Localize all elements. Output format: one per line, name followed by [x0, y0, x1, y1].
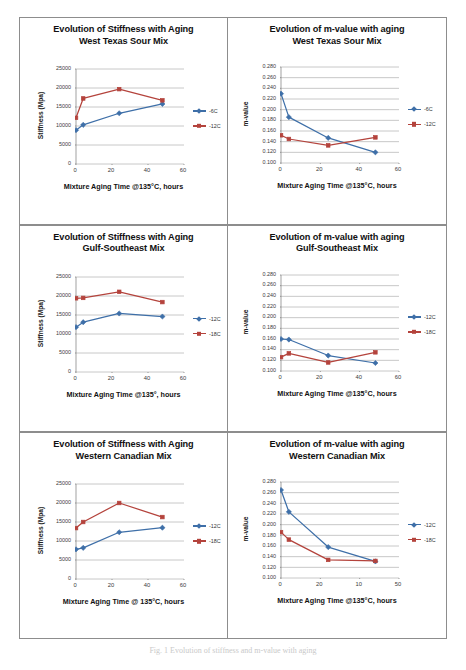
- chart-legend: -12C-18C: [193, 316, 221, 346]
- legend-item[interactable]: -12C: [193, 523, 221, 529]
- y-tick-label: 0.100: [263, 367, 277, 373]
- chart-title-line2: Western Canadian Mix: [228, 451, 446, 463]
- x-axis-title: Mixture Aging Time @135°C, hours: [228, 389, 446, 398]
- y-tick-label: 0.180: [263, 324, 277, 330]
- x-axis-tick-labels: 0201050: [280, 581, 398, 591]
- legend-square-icon: [408, 539, 421, 541]
- x-tick-label: 40: [355, 166, 361, 172]
- chart-title-line2: West Texas Sour Mix: [228, 36, 446, 48]
- chart-panel-stiffness-western-canadian: Evolution of Stiffness with AgingWestern…: [19, 432, 227, 639]
- x-axis-title: Mixture Aging Time @135°C, hours: [20, 182, 227, 191]
- y-tick-label: 0.160: [263, 542, 277, 548]
- y-axis-tick-labels: 0.1000.1200.1400.1600.1800.2000.2200.240…: [248, 274, 276, 370]
- figure-grid: Evolution of Stiffness with AgingWest Te…: [19, 17, 447, 639]
- x-tick-label: 40: [144, 167, 150, 173]
- y-tick-label: 0.220: [263, 95, 277, 101]
- chart-title-line1: Evolution of m-value with aging: [228, 439, 446, 451]
- y-tick-label: 15000: [56, 311, 71, 317]
- y-tick-label: 20000: [56, 292, 71, 298]
- x-tick-label: 60: [180, 582, 186, 588]
- y-tick-label: 0.220: [263, 303, 277, 309]
- x-tick-label: 40: [144, 582, 150, 588]
- y-axis-tick-labels: 0500010000150002000025000: [43, 276, 71, 371]
- y-tick-label: 0.260: [263, 74, 277, 80]
- legend-item[interactable]: -12C: [408, 522, 436, 528]
- x-tick-label: 40: [144, 375, 150, 381]
- legend-label: -18C: [424, 537, 436, 543]
- chart-title-line1: Evolution of Stiffness with Aging: [20, 439, 227, 451]
- y-tick-label: 0.140: [263, 345, 277, 351]
- x-axis-title: Mixture Aging Time @135°C, hours: [228, 181, 446, 190]
- x-axis-title: Mixture Aging Time @135°, hours: [20, 390, 227, 399]
- chart-row: Evolution of Stiffness with AgingWestern…: [19, 432, 447, 639]
- chart-title-line2: Gulf-Southeast Mix: [228, 243, 446, 255]
- legend-diamond-icon: [408, 524, 421, 526]
- chart-panel-mvalue-gulf-southeast: Evolution of m-value with agingGulf-Sout…: [227, 225, 447, 432]
- y-tick-label: 15000: [56, 518, 71, 524]
- y-tick-label: 20000: [56, 499, 71, 505]
- legend-item[interactable]: -12C: [193, 123, 221, 129]
- y-tick-label: 0.140: [263, 138, 277, 144]
- legend-item[interactable]: -18C: [408, 537, 436, 543]
- legend-label: -18C: [209, 538, 221, 544]
- chart-title-line2: Gulf-Southeast Mix: [20, 243, 227, 255]
- legend-square-icon: [408, 124, 421, 126]
- legend-item[interactable]: -6C: [408, 106, 436, 112]
- x-axis-title: Mixture Aging Time @135°C, hours: [228, 596, 446, 605]
- y-tick-label: 0: [68, 368, 71, 374]
- legend-label: -18C: [209, 331, 221, 337]
- y-tick-label: 10000: [56, 537, 71, 543]
- x-tick-label: 20: [316, 166, 322, 172]
- y-tick-label: 0.240: [263, 84, 277, 90]
- x-tick-label: 0: [278, 581, 281, 587]
- legend-label: -6C: [424, 106, 433, 112]
- y-tick-label: 0: [68, 160, 71, 166]
- x-tick-label: 60: [395, 166, 401, 172]
- chart-title-line1: Evolution of Stiffness with Aging: [20, 232, 227, 244]
- figure-caption: Fig. 1 Evolution of stiffness and m-valu…: [0, 646, 466, 655]
- legend-item[interactable]: -18C: [193, 331, 221, 337]
- legend-square-icon: [193, 540, 206, 542]
- legend-square-icon: [193, 125, 206, 127]
- x-tick-label: 20: [108, 167, 114, 173]
- legend-item[interactable]: -12C: [408, 121, 436, 127]
- legend-label: -12C: [424, 522, 436, 528]
- chart-panel-mvalue-western-canadian: Evolution of m-value with agingWestern C…: [227, 432, 447, 639]
- x-tick-label: 0: [278, 166, 281, 172]
- legend-item[interactable]: -12C: [408, 314, 436, 320]
- chart-title: Evolution of m-value with agingGulf-Sout…: [228, 226, 446, 256]
- chart-title-line1: Evolution of m-value with aging: [228, 232, 446, 244]
- y-tick-label: 5000: [59, 141, 71, 147]
- y-tick-label: 5000: [59, 349, 71, 355]
- chart-panel-stiffness-west-texas: Evolution of Stiffness with AgingWest Te…: [19, 17, 227, 224]
- chart-legend: -6C-12C: [408, 106, 436, 136]
- x-tick-label: 50: [395, 581, 401, 587]
- x-tick-label: 40: [355, 374, 361, 380]
- chart-title-line1: Evolution of m-value with aging: [228, 24, 446, 36]
- legend-item[interactable]: -18C: [193, 538, 221, 544]
- legend-label: -18C: [424, 329, 436, 335]
- legend-item[interactable]: -18C: [408, 329, 436, 335]
- plot-area: [280, 274, 400, 372]
- x-tick-label: 60: [395, 374, 401, 380]
- legend-square-icon: [408, 331, 421, 333]
- x-tick-label: 0: [278, 374, 281, 380]
- y-tick-label: 10000: [56, 330, 71, 336]
- legend-square-icon: [193, 333, 206, 335]
- x-axis-tick-labels: 0204060: [75, 167, 183, 177]
- legend-label: -12C: [209, 123, 221, 129]
- y-tick-label: 0.120: [263, 564, 277, 570]
- y-tick-label: 0: [68, 575, 71, 581]
- x-tick-label: 0: [73, 167, 76, 173]
- y-tick-label: 0.280: [263, 63, 277, 69]
- legend-label: -6C: [209, 108, 218, 114]
- x-axis-tick-labels: 0204060: [280, 166, 398, 176]
- plot-area: [75, 68, 185, 165]
- plot-area: [75, 483, 185, 580]
- y-tick-label: 0.220: [263, 510, 277, 516]
- legend-item[interactable]: -6C: [193, 108, 221, 114]
- legend-item[interactable]: -12C: [193, 316, 221, 322]
- y-tick-label: 15000: [56, 103, 71, 109]
- y-tick-label: 25000: [56, 273, 71, 279]
- y-tick-label: 0.280: [263, 478, 277, 484]
